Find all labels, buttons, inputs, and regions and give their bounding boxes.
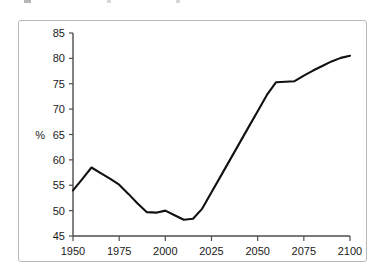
line-chart-plot: 455055606570758085%195019752000202520502… <box>18 20 367 262</box>
y-axis-tick-label: 50 <box>53 205 65 217</box>
x-axis-tick-label: 1950 <box>61 245 85 257</box>
y-axis-tick-label: 45 <box>53 230 65 242</box>
x-axis-tick-label: 2000 <box>153 245 177 257</box>
x-axis-tick-label: 2050 <box>245 245 269 257</box>
x-axis-tick-label: 2100 <box>338 245 362 257</box>
data-series-line <box>73 56 350 220</box>
y-axis-tick-label: 85 <box>53 27 65 39</box>
y-axis-tick-label: 75 <box>53 78 65 90</box>
y-axis-tick-label: 55 <box>53 179 65 191</box>
y-axis-label: % <box>35 129 45 141</box>
y-axis-tick-label: 80 <box>53 52 65 64</box>
y-axis-tick-label: 60 <box>53 154 65 166</box>
x-axis-tick-label: 2025 <box>199 245 223 257</box>
title-remnant-fragment <box>24 0 31 3</box>
title-remnant-fragment <box>176 0 180 3</box>
x-axis-tick-label: 2075 <box>292 245 316 257</box>
chart-figure: 455055606570758085%195019752000202520502… <box>0 0 390 273</box>
x-axis-tick-label: 1975 <box>107 245 131 257</box>
y-axis-tick-label: 70 <box>53 103 65 115</box>
title-remnant-fragment <box>107 0 111 3</box>
y-axis-tick-label: 65 <box>53 129 65 141</box>
